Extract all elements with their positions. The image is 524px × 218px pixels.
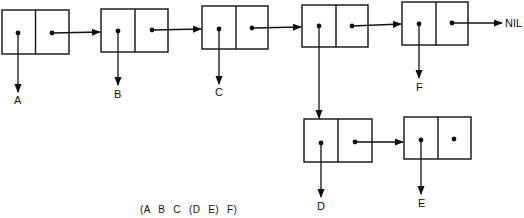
atom-label-a: A [14, 95, 21, 106]
cdr-end-dot-sublist-2 [452, 137, 457, 142]
car-pointer-dot-4 [317, 24, 322, 29]
cdr-pointer-dot-1 [50, 31, 55, 36]
atom-label-b: B [114, 89, 121, 100]
cdr-arrow-1-to-2 [52, 32, 100, 33]
cdr-arrow-2-to-3 [152, 29, 201, 30]
cdr-pointer-dot-2 [150, 28, 155, 33]
car-pointer-dot-1 [16, 31, 21, 36]
cdr-pointer-dot-3 [250, 26, 255, 31]
car-pointer-dot-3 [217, 27, 222, 32]
cdr-pointer-dot-sublist-1 [353, 140, 358, 145]
car-pointer-dot-sublist-2 [419, 138, 424, 143]
atom-label-c: C [215, 87, 223, 98]
cons-cell-sublist-2 [404, 117, 471, 159]
cdr-arrow-3-to-4 [252, 27, 301, 28]
nil-label: NIL [505, 18, 522, 29]
cdr-pointer-dot-5 [450, 21, 455, 26]
car-pointer-dot-2 [116, 29, 121, 34]
cdr-arrow-4-to-5 [352, 24, 401, 26]
atom-label-d: D [317, 201, 325, 212]
cons-cell-diagram [0, 0, 524, 218]
atom-label-f: F [416, 82, 423, 93]
cons-cell-sublist-1 [304, 119, 372, 162]
cons-cell-1 [2, 10, 69, 54]
cdr-pointer-dot-4 [350, 24, 355, 29]
atom-label-e: E [418, 198, 425, 209]
car-pointer-dot-5 [417, 22, 422, 27]
car-pointer-dot-sublist-1 [319, 141, 324, 146]
list-expression-caption: (A B C (D E) F) [140, 204, 237, 215]
